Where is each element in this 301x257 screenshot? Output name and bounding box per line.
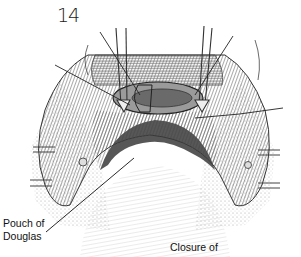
pouch-label-line1: Pouch of	[3, 217, 44, 230]
vault-inner	[132, 89, 192, 107]
caption: Closure of	[170, 241, 218, 254]
ligature-left	[79, 158, 87, 166]
suture-arc-right	[255, 40, 259, 80]
ligature-right	[245, 162, 252, 169]
bladder-flap	[92, 55, 223, 85]
pouch-label-line2: Douglas	[3, 230, 44, 243]
pouch-of-douglas-label: Pouch of Douglas	[3, 217, 44, 243]
surgical-illustration	[0, 0, 301, 257]
